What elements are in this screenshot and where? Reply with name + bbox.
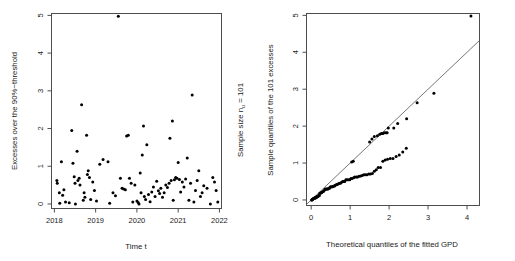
y-tick-label: 4 bbox=[291, 50, 300, 54]
x-tick-label: 2018 bbox=[46, 216, 63, 225]
data-point bbox=[143, 195, 146, 198]
data-point bbox=[68, 201, 71, 204]
data-point bbox=[396, 122, 399, 125]
data-point bbox=[137, 202, 140, 205]
panel-excesses-scatter: 012345 20182019202020212022 Time t Exces… bbox=[0, 0, 257, 261]
data-point bbox=[192, 201, 195, 204]
data-point bbox=[55, 179, 58, 182]
data-point bbox=[163, 191, 166, 194]
data-point bbox=[405, 147, 408, 150]
data-point bbox=[389, 157, 392, 160]
right-y-axis-ticks: 012345 bbox=[291, 13, 306, 202]
data-point bbox=[144, 198, 147, 201]
data-point bbox=[145, 143, 148, 146]
data-point bbox=[88, 176, 91, 179]
data-point bbox=[184, 178, 187, 181]
data-point bbox=[209, 202, 212, 205]
data-point bbox=[155, 180, 158, 183]
left-plot-box bbox=[52, 14, 222, 209]
panel-gpd-qqplot: 012345 01234 Theoretical quantiles of th… bbox=[258, 0, 515, 261]
left-data-points bbox=[55, 15, 219, 206]
data-point bbox=[216, 201, 219, 204]
y-tick-label: 0 bbox=[291, 198, 300, 202]
data-point bbox=[58, 202, 61, 205]
data-point bbox=[194, 189, 197, 192]
data-point bbox=[150, 190, 153, 193]
data-point bbox=[60, 160, 63, 163]
data-point bbox=[56, 182, 59, 185]
right-x-axis-ticks: 01234 bbox=[309, 206, 469, 222]
data-point bbox=[86, 173, 89, 176]
data-point bbox=[130, 182, 133, 185]
left-y-axis-ticks: 012345 bbox=[36, 13, 51, 206]
data-point bbox=[191, 93, 194, 96]
data-point bbox=[82, 199, 85, 202]
x-tick-label: 0 bbox=[309, 213, 313, 222]
left-x-axis-ticks: 20182019202020212022 bbox=[46, 209, 228, 225]
data-point bbox=[158, 192, 161, 195]
data-point bbox=[107, 160, 110, 163]
data-point bbox=[170, 179, 173, 182]
data-point bbox=[78, 184, 81, 187]
data-point bbox=[161, 196, 164, 199]
excesses-scatter-svg: 012345 20182019202020212022 Time t Exces… bbox=[0, 0, 257, 261]
data-point bbox=[189, 182, 192, 185]
data-point bbox=[74, 182, 77, 185]
right-x-axis-label: Theoretical quantiles of the fitted GPD bbox=[326, 240, 458, 249]
data-point bbox=[395, 155, 398, 158]
right-plot-box bbox=[307, 14, 480, 206]
data-point bbox=[133, 184, 136, 187]
data-point bbox=[62, 188, 65, 191]
data-point bbox=[83, 191, 86, 194]
data-point bbox=[87, 169, 90, 172]
data-point bbox=[159, 187, 162, 190]
data-point bbox=[74, 202, 77, 205]
x-tick-label: 2019 bbox=[87, 216, 104, 225]
data-point bbox=[387, 126, 390, 129]
data-point bbox=[172, 199, 175, 202]
data-point bbox=[196, 179, 199, 182]
x-tick-label: 2022 bbox=[211, 216, 228, 225]
data-point bbox=[352, 160, 355, 163]
data-point bbox=[149, 200, 152, 203]
data-point bbox=[152, 186, 155, 189]
data-point bbox=[142, 124, 145, 127]
data-point bbox=[171, 120, 174, 123]
data-point bbox=[379, 166, 382, 169]
data-point bbox=[177, 161, 180, 164]
qq-reference-line bbox=[307, 40, 480, 204]
y-tick-label: 1 bbox=[291, 161, 300, 165]
data-point bbox=[373, 135, 376, 138]
data-point bbox=[392, 126, 395, 129]
left-x-axis-label: Time t bbox=[125, 242, 147, 251]
x-tick-label: 4 bbox=[465, 213, 469, 222]
data-point bbox=[398, 153, 401, 156]
data-point bbox=[139, 172, 142, 175]
data-point bbox=[70, 129, 73, 132]
data-point bbox=[108, 202, 111, 205]
data-point bbox=[182, 186, 185, 189]
data-point bbox=[392, 157, 395, 160]
data-point bbox=[128, 177, 131, 180]
data-point bbox=[199, 195, 202, 198]
data-point bbox=[124, 188, 127, 191]
data-point bbox=[91, 181, 94, 184]
figure-container: 012345 20182019202020212022 Time t Exces… bbox=[0, 0, 515, 261]
data-point bbox=[316, 195, 319, 198]
data-point bbox=[80, 103, 83, 106]
data-point bbox=[386, 158, 389, 161]
data-point bbox=[83, 196, 86, 199]
y-tick-label: 4 bbox=[36, 51, 45, 55]
right-data-points bbox=[310, 15, 472, 202]
data-point bbox=[386, 131, 389, 134]
data-point bbox=[166, 186, 169, 189]
data-point bbox=[141, 153, 144, 156]
data-point bbox=[71, 162, 74, 165]
y-tick-label: 0 bbox=[36, 202, 45, 206]
y-tick-label: 5 bbox=[291, 13, 300, 17]
data-point bbox=[197, 169, 200, 172]
x-tick-label: 2 bbox=[387, 213, 391, 222]
data-point bbox=[98, 163, 101, 166]
data-point bbox=[202, 184, 205, 187]
data-point bbox=[147, 193, 150, 196]
